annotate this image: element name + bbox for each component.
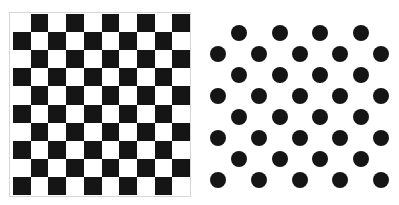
dot — [251, 130, 267, 146]
dot — [292, 130, 308, 146]
dot — [272, 151, 288, 167]
dot — [332, 46, 348, 62]
dot — [231, 109, 247, 125]
dot — [353, 67, 369, 83]
dot — [312, 25, 328, 41]
dot — [272, 25, 288, 41]
dot — [210, 130, 226, 146]
dot — [353, 109, 369, 125]
dot — [332, 130, 348, 146]
dot — [312, 67, 328, 83]
dot — [231, 67, 247, 83]
dot — [292, 172, 308, 188]
dot — [231, 25, 247, 41]
dot — [210, 88, 226, 104]
dot-pattern — [0, 0, 399, 205]
dot — [251, 46, 267, 62]
dot — [373, 172, 389, 188]
dot — [210, 172, 226, 188]
dot — [272, 109, 288, 125]
dot — [312, 151, 328, 167]
dot — [332, 88, 348, 104]
dot — [292, 88, 308, 104]
dot — [231, 151, 247, 167]
dot — [353, 151, 369, 167]
dot — [251, 88, 267, 104]
dot — [312, 109, 328, 125]
dot — [373, 130, 389, 146]
dot — [332, 172, 348, 188]
dot — [373, 46, 389, 62]
dot — [292, 46, 308, 62]
dot — [272, 67, 288, 83]
dot — [210, 46, 226, 62]
dot — [373, 88, 389, 104]
dot — [251, 172, 267, 188]
dot — [353, 25, 369, 41]
